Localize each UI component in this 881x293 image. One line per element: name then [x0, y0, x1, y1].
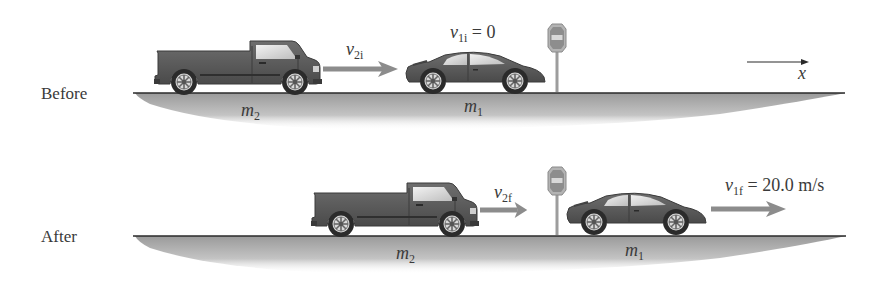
mass-subscript: 2: [409, 252, 415, 266]
after-v1f-label: v1f = 20.0 m/s: [725, 175, 824, 199]
velocity-subscript: 1i: [458, 31, 467, 45]
mass-symbol: m: [396, 243, 409, 263]
velocity-value: = 20.0 m/s: [743, 175, 824, 195]
before-car-icon: [406, 52, 545, 94]
after-m1-label: m1: [625, 240, 644, 264]
after-ground: [133, 236, 846, 274]
velocity-subscript: 1f: [733, 184, 743, 198]
mass-symbol: m: [464, 96, 477, 116]
mass-subscript: 1: [477, 105, 483, 119]
mass-symbol: m: [625, 240, 638, 260]
before-v2i-label: v2i: [346, 39, 363, 63]
after-label: After: [41, 227, 77, 247]
mass-subscript: 1: [638, 249, 644, 263]
diagram-graphics: [0, 0, 881, 293]
after-v2f-label: v2f: [494, 182, 512, 206]
mass-subscript: 2: [254, 109, 260, 123]
velocity-subscript: 2f: [502, 191, 512, 205]
velocity-symbol: v: [450, 22, 458, 42]
after-stop-sign-icon: [548, 167, 566, 235]
before-stop-sign-icon: [548, 24, 566, 92]
after-m2-label: m2: [396, 243, 415, 267]
collision-diagram: Before v2i v1i = 0 m2 m1 x After v2f v1f…: [0, 0, 881, 293]
before-m1-label: m1: [464, 96, 483, 120]
before-label: Before: [41, 84, 87, 104]
before-m2-label: m2: [241, 100, 260, 124]
velocity-value: = 0: [467, 22, 495, 42]
velocity-symbol: v: [494, 182, 502, 202]
velocity-symbol: v: [346, 39, 354, 59]
after-velocity-arrow-v1f: [711, 201, 786, 217]
x-axis-label: x: [798, 63, 806, 84]
after-truck-icon: [311, 183, 479, 237]
before-velocity-arrow-v2i: [323, 61, 398, 77]
before-ground: [133, 93, 845, 130]
mass-symbol: m: [241, 100, 254, 120]
velocity-subscript: 2i: [354, 48, 363, 62]
before-v1i-label: v1i = 0: [450, 22, 496, 46]
before-truck-icon: [154, 41, 322, 95]
velocity-symbol: v: [725, 175, 733, 195]
after-car-icon: [567, 193, 706, 235]
